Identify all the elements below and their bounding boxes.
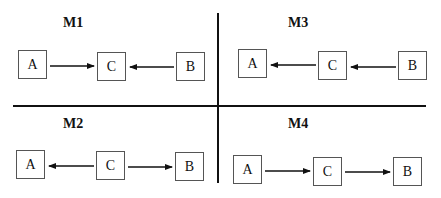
arrows-layer (0, 0, 441, 198)
